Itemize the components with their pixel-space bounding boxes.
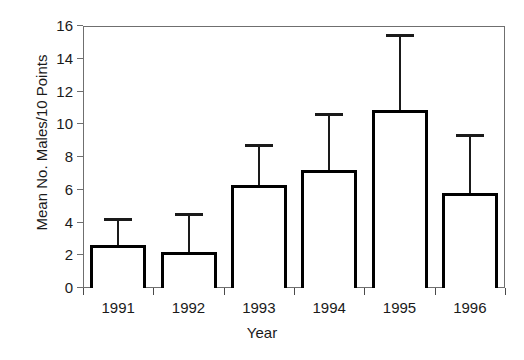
y-tick-label: 2 — [65, 245, 73, 264]
error-bar-cap — [315, 113, 343, 116]
y-tick-label: 10 — [56, 114, 73, 133]
bar — [90, 245, 146, 288]
error-bar-stem — [328, 113, 330, 170]
error-bar-cap — [456, 134, 484, 137]
error-bar-stem — [258, 144, 260, 185]
error-bar-cap — [386, 34, 414, 37]
bar-chart-figure: 0246810121416 Mean No. Males/10 Points Y… — [0, 0, 524, 360]
x-axis-label: 1995 — [364, 298, 434, 317]
bar — [231, 185, 287, 288]
x-tick-mark — [505, 288, 506, 295]
y-tick-label: 14 — [56, 49, 73, 68]
y-tick-label: 0 — [65, 278, 73, 297]
y-tick-label: 8 — [65, 147, 73, 166]
x-tick-mark — [294, 288, 295, 295]
bar — [161, 252, 217, 288]
bar — [301, 170, 357, 288]
x-tick-mark — [435, 288, 436, 295]
x-axis-label: 1996 — [435, 298, 505, 317]
bar — [372, 110, 428, 288]
y-tick-label: 4 — [65, 213, 73, 232]
bar — [442, 193, 498, 288]
x-tick-mark — [153, 288, 154, 295]
x-tick-mark — [83, 288, 84, 295]
error-bar-stem — [469, 134, 471, 193]
y-tick-label: 6 — [65, 180, 73, 199]
y-axis-title: Mean No. Males/10 Points — [33, 18, 50, 268]
error-bar-cap — [175, 213, 203, 216]
x-axis-title: Year — [0, 324, 524, 341]
error-bar-stem — [117, 218, 119, 246]
error-bar-cap — [245, 144, 273, 147]
error-bar-cap — [104, 218, 132, 221]
error-bar-stem — [188, 213, 190, 252]
x-tick-mark — [224, 288, 225, 295]
y-tick-label: 12 — [56, 82, 73, 101]
x-axis-label: 1992 — [153, 298, 223, 317]
error-bar-stem — [399, 34, 401, 109]
x-axis-label: 1994 — [294, 298, 364, 317]
x-axis-label: 1991 — [83, 298, 153, 317]
x-axis-label: 1993 — [224, 298, 294, 317]
y-tick-label: 16 — [56, 16, 73, 35]
x-tick-mark — [364, 288, 365, 295]
